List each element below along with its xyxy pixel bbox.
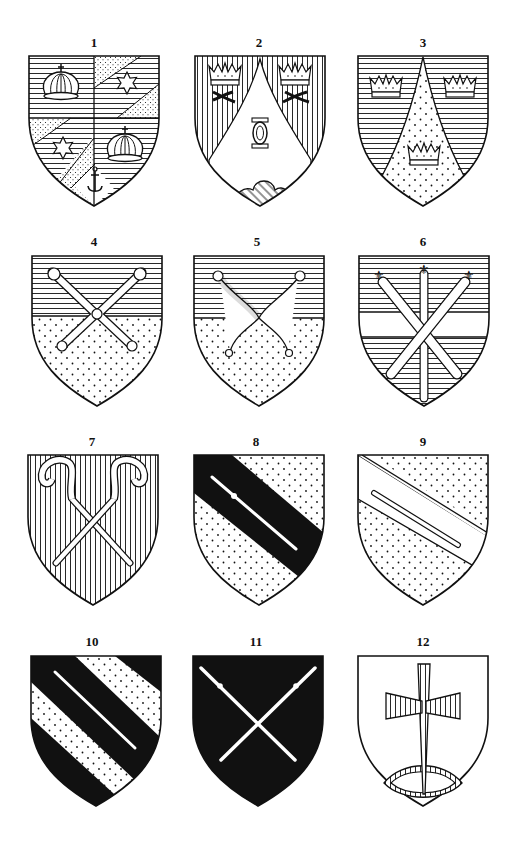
shield-9-number: 9 <box>420 434 427 449</box>
shield-11-number: 11 <box>250 634 262 649</box>
heraldry-plate: 1 <box>0 0 514 848</box>
shield-3-number: 3 <box>420 35 427 50</box>
shield-1-field <box>29 56 159 206</box>
shield-6-number: 6 <box>420 234 427 249</box>
shield-5-number: 5 <box>254 234 261 249</box>
shield-12-field <box>358 656 488 806</box>
shield-8: 8 <box>194 434 324 605</box>
shield-4: 4 <box>32 234 162 406</box>
shield-1-number: 1 <box>91 35 98 50</box>
shield-6-field: ⚜ ⚜ ⚜ <box>359 256 489 406</box>
shield-7-field <box>28 455 158 605</box>
shield-1: 1 <box>29 35 159 206</box>
shield-8-number: 8 <box>253 434 260 449</box>
shield-8-field <box>194 455 324 605</box>
shield-9: 9 <box>358 434 488 605</box>
shield-3-field <box>358 56 488 206</box>
shield-2-number: 2 <box>256 35 263 50</box>
shield-7: 7 <box>28 434 158 605</box>
svg-text:⚜: ⚜ <box>373 268 385 283</box>
shield-10-field <box>31 656 161 806</box>
shield-5: 5 <box>194 234 324 406</box>
shield-9-field <box>358 455 488 605</box>
shield-4-number: 4 <box>91 234 98 249</box>
shield-2-field <box>195 56 325 206</box>
shield-2: 2 <box>195 35 325 206</box>
shield-10: 10 <box>31 634 161 806</box>
shield-3: 3 <box>358 35 488 206</box>
shield-12: 12 <box>358 634 488 806</box>
svg-text:⚜: ⚜ <box>418 262 430 277</box>
shield-10-number: 10 <box>86 634 99 649</box>
shield-5-field <box>194 256 324 406</box>
shield-11-field <box>193 656 323 806</box>
shield-7-number: 7 <box>89 434 96 449</box>
svg-text:⚜: ⚜ <box>463 268 475 283</box>
shield-11: 11 <box>193 634 323 806</box>
shield-12-number: 12 <box>417 634 430 649</box>
shield-6: 6 ⚜ ⚜ ⚜ <box>359 234 489 406</box>
shield-4-field <box>32 256 162 406</box>
